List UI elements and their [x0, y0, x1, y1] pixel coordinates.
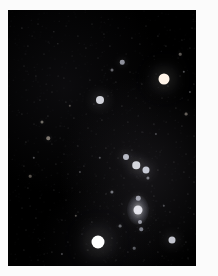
sky-speckle	[82, 228, 83, 229]
sky-speckle	[66, 63, 67, 64]
sky-speckle	[43, 261, 44, 262]
sky-speckle	[40, 223, 41, 224]
background-star	[192, 162, 193, 163]
sky-speckle	[85, 163, 86, 164]
sky-speckle	[111, 68, 112, 69]
sky-speckle	[18, 201, 19, 202]
sky-speckle	[194, 74, 195, 75]
sky-speckle	[49, 248, 50, 249]
sky-speckle	[12, 111, 13, 112]
sky-speckle	[43, 92, 44, 93]
sky-speckle	[103, 202, 104, 203]
sky-speckle	[180, 177, 181, 178]
sky-speckle	[68, 112, 69, 113]
background-star	[118, 28, 119, 29]
sky-speckle	[104, 37, 105, 38]
sky-speckle	[178, 174, 179, 175]
sky-speckle	[185, 200, 186, 201]
sky-speckle	[183, 235, 184, 236]
sky-speckle	[163, 220, 164, 221]
star-field-star-a	[163, 205, 165, 207]
sky-speckle	[62, 232, 63, 233]
sky-speckle	[129, 237, 130, 238]
sky-speckle	[116, 254, 117, 255]
sky-speckle	[89, 45, 90, 46]
sky-speckle	[14, 43, 15, 44]
sky-speckle	[108, 234, 109, 235]
sky-speckle	[17, 239, 18, 240]
sky-speckle	[149, 100, 150, 101]
sky-speckle	[39, 190, 40, 191]
sky-speckle	[195, 21, 196, 22]
sky-speckle	[87, 245, 88, 246]
sky-speckle	[195, 132, 196, 133]
sky-speckle	[168, 97, 169, 98]
background-star	[54, 232, 55, 233]
background-star	[22, 208, 23, 209]
sky-speckle	[61, 162, 62, 163]
sky-speckle	[179, 219, 180, 220]
sky-speckle	[165, 211, 166, 212]
sky-speckle	[160, 53, 161, 54]
sky-speckle	[42, 26, 43, 27]
sky-speckle	[156, 151, 157, 152]
sky-speckle	[47, 124, 48, 125]
sky-speckle	[133, 203, 134, 204]
sky-speckle	[190, 159, 191, 160]
sky-speckle	[149, 245, 150, 246]
sky-speckle	[32, 117, 33, 118]
sky-speckle	[191, 89, 192, 90]
sky-speckle	[142, 55, 143, 56]
sky-speckle	[60, 123, 61, 124]
sky-speckle	[68, 111, 69, 112]
background-star	[127, 251, 128, 252]
sky-speckle	[147, 56, 148, 57]
sky-speckle	[11, 217, 12, 218]
sky-speckle	[158, 261, 159, 262]
sky-speckle	[174, 38, 175, 39]
sky-speckle	[75, 254, 76, 255]
sky-speckle	[185, 204, 186, 205]
background-star	[24, 66, 25, 67]
sky-speckle	[172, 188, 173, 189]
sky-speckle	[30, 190, 31, 191]
sky-speckle	[127, 64, 128, 65]
background-star	[169, 211, 170, 212]
sky-speckle	[181, 155, 182, 156]
sky-speckle	[51, 56, 52, 57]
background-star	[38, 24, 39, 25]
background-star	[46, 84, 47, 85]
sky-speckle	[110, 228, 111, 229]
background-star	[96, 134, 97, 135]
background-star	[144, 260, 145, 261]
sky-speckle	[98, 105, 99, 106]
sky-speckle	[168, 14, 169, 15]
background-star	[156, 74, 157, 75]
sky-speckle	[75, 16, 76, 17]
sky-speckle	[155, 156, 156, 157]
sky-speckle	[87, 61, 88, 62]
sky-speckle	[106, 78, 107, 79]
sky-speckle	[95, 204, 96, 205]
sky-speckle	[168, 235, 169, 236]
sky-speckle	[41, 69, 42, 70]
sky-speckle	[68, 21, 69, 22]
sky-speckle	[61, 117, 62, 118]
sky-speckle	[178, 265, 179, 266]
background-star	[85, 47, 86, 48]
background-star	[51, 251, 52, 252]
background-star	[26, 90, 27, 91]
sky-speckle	[17, 44, 18, 45]
sky-speckle	[170, 265, 171, 266]
sky-speckle	[82, 173, 83, 174]
sky-speckle	[175, 96, 176, 97]
sky-speckle	[13, 32, 14, 33]
sky-speckle	[8, 79, 9, 80]
sky-speckle	[166, 163, 167, 164]
sky-speckle	[129, 18, 130, 19]
sky-speckle	[62, 99, 63, 100]
sky-speckle	[188, 59, 189, 60]
sky-speckle	[108, 255, 109, 256]
background-star	[162, 256, 163, 257]
sky-speckle	[165, 34, 166, 35]
